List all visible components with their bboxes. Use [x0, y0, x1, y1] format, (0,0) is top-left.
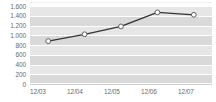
data-point — [119, 24, 124, 29]
y-tick-label: 1.000 — [0, 32, 26, 39]
y-tick-label: 800 — [0, 42, 26, 49]
data-point — [46, 39, 51, 44]
data-point — [191, 12, 196, 17]
series-markers — [46, 10, 196, 44]
line-chart: 1.600 1.400 1.200 1.000 800 600 400 200 … — [0, 0, 216, 102]
top-rule — [30, 2, 212, 3]
y-tick-label: 0 — [0, 81, 26, 88]
data-point — [82, 32, 87, 37]
y-tick-label: 200 — [0, 71, 26, 78]
y-tick-label: 1.200 — [0, 22, 26, 29]
x-tick-label: 12/07 — [166, 88, 206, 96]
y-tick-label: 1.400 — [0, 12, 26, 19]
x-tick-label: 12/04 — [55, 88, 95, 96]
y-tick-label: 1.600 — [0, 3, 26, 10]
y-tick-label: 400 — [0, 61, 26, 68]
x-tick-label: 12/03 — [18, 88, 58, 96]
data-point — [155, 10, 160, 15]
data-series-layer — [30, 6, 212, 84]
axis-baseline — [30, 84, 212, 85]
y-tick-label: 600 — [0, 51, 26, 58]
x-tick-label: 12/05 — [92, 88, 132, 96]
x-tick-label: 12/06 — [129, 88, 169, 96]
